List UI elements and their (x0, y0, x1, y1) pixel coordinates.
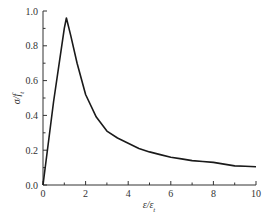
x-tick-label: 0 (41, 188, 46, 199)
x-tick-label: 10 (251, 188, 261, 199)
y-tick-label: 0.6 (26, 75, 39, 86)
y-tick-label: 0.2 (26, 145, 39, 156)
axes (43, 11, 256, 185)
x-ticks: 0246810 (41, 181, 262, 199)
stress-strain-chart: 0.00.20.40.60.81.0 0246810 σ/ft ε/εt (0, 0, 264, 213)
stress-strain-curve (43, 18, 256, 185)
x-tick-label: 4 (126, 188, 131, 199)
y-tick-label: 1.0 (26, 6, 39, 17)
y-tick-label: 0.4 (26, 110, 39, 121)
x-tick-label: 2 (83, 188, 88, 199)
x-axis-label: ε/εt (143, 199, 157, 213)
y-axis-label: σ/ft (11, 91, 26, 105)
x-tick-label: 6 (168, 188, 173, 199)
y-tick-label: 0.8 (26, 40, 39, 51)
x-tick-label: 8 (211, 188, 216, 199)
y-tick-label: 0.0 (26, 180, 39, 191)
y-ticks: 0.00.20.40.60.81.0 (26, 6, 48, 191)
